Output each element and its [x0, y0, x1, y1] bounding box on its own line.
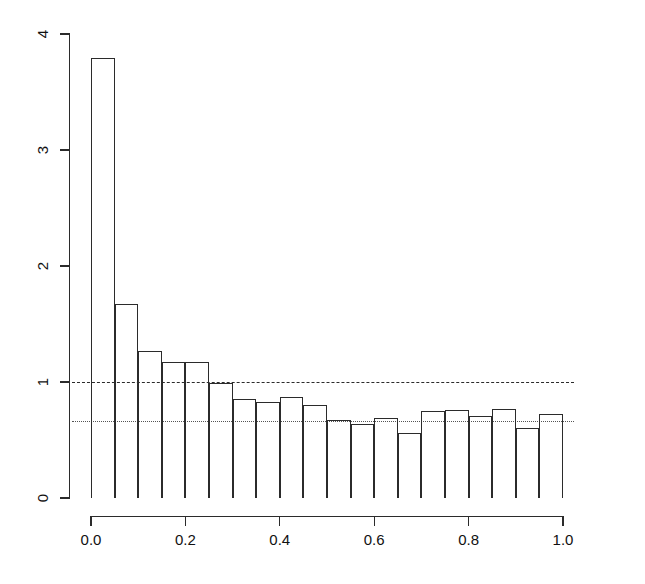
histogram-bars [0, 0, 645, 584]
histogram-bar [374, 418, 398, 498]
histogram-bar [303, 405, 327, 498]
histogram-bar [445, 410, 469, 498]
histogram-bar [351, 424, 375, 498]
histogram-bar [233, 399, 257, 498]
histogram-bar [327, 420, 351, 498]
histogram-bar [115, 304, 139, 498]
histogram-bar [516, 428, 540, 498]
histogram-bar [138, 351, 162, 498]
histogram-bar [209, 383, 233, 498]
histogram-bar [185, 362, 209, 498]
histogram-plot: 01234 0.00.20.40.60.81.0 [0, 0, 645, 584]
histogram-bar [280, 397, 304, 498]
histogram-bar [91, 58, 115, 498]
histogram-bar [421, 411, 445, 498]
histogram-bar [469, 416, 493, 498]
histogram-bar [492, 409, 516, 498]
histogram-bar [256, 402, 280, 498]
histogram-bar [162, 362, 186, 498]
histogram-bar [398, 433, 422, 498]
histogram-bar [539, 414, 563, 498]
